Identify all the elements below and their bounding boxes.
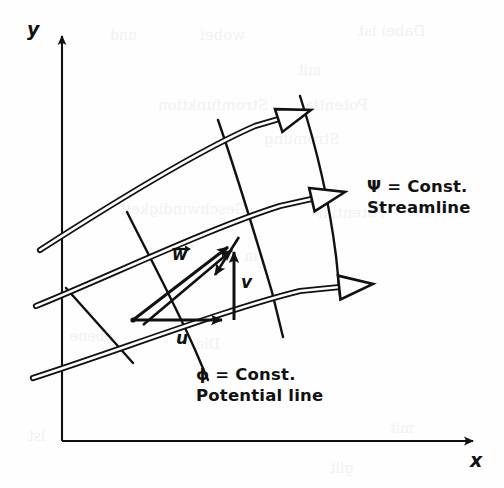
vector-overbar-arrow-icon — [172, 244, 191, 254]
resultant-velocity-label: w — [172, 244, 188, 264]
streamlines-group — [33, 99, 374, 378]
streamline-lower-arrowhead-icon — [338, 272, 374, 299]
potential-line-annotation-line1: ϕ = Const. — [196, 364, 323, 385]
streamline-annotation-line2: Streamline — [367, 197, 471, 218]
potential-line-annotation-line2: Potential line — [196, 385, 323, 406]
streamline-annotation-line1: Ψ = Const. — [367, 176, 471, 197]
x-axis-label: x — [470, 449, 482, 471]
flow-net-figure: Dabei istwobeiundmitPotentialStromfunkti… — [0, 0, 504, 488]
horizontal-velocity-component-label: u — [176, 328, 188, 348]
vertical-velocity-component-label: v — [241, 272, 252, 292]
streamline-upper-core — [40, 114, 296, 250]
streamline-upper — [40, 99, 315, 250]
streamline-middle — [36, 180, 348, 306]
streamline-upper-outer — [40, 114, 296, 250]
potential-line-left — [66, 288, 133, 363]
diagram-artwork — [0, 0, 504, 488]
potential-line-annotation: ϕ = Const. Potential line — [196, 364, 323, 406]
velocity-origin-dot — [130, 317, 135, 322]
y-axis-label: y — [27, 18, 39, 40]
streamline-annotation: Ψ = Const. Streamline — [367, 176, 471, 218]
